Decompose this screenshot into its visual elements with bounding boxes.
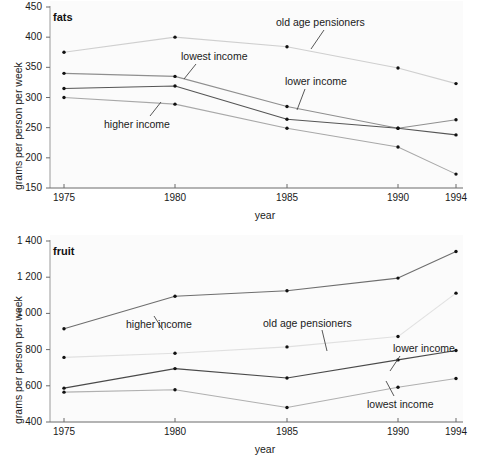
fruit-y-tick-label: 1 400 bbox=[0, 235, 42, 246]
fats-label-lower-income: lower income bbox=[285, 75, 347, 87]
fats-y-tick-label: 200 bbox=[0, 152, 42, 163]
fats-x-tick-label: 1990 bbox=[373, 192, 423, 203]
fats-y-tick-label: 300 bbox=[0, 92, 42, 103]
fruit-y-tick-label: 800 bbox=[0, 344, 42, 355]
fats-y-tick-label: 400 bbox=[0, 31, 42, 42]
fats-x-tick-label: 1975 bbox=[39, 192, 89, 203]
fruit-label-lowest-income: lowest income bbox=[367, 398, 434, 410]
fats-x-tick-label: 1980 bbox=[150, 192, 200, 203]
fruit-label-old-age-pensioners: old age pensioners bbox=[263, 317, 352, 329]
fruit-y-tick-label: 400 bbox=[0, 416, 42, 427]
fats-label-higher-income: higher income bbox=[104, 118, 170, 130]
fruit-label-lower-income: lower income bbox=[393, 342, 455, 354]
fats-chart-panel: fats grams per person per week year old … bbox=[0, 0, 481, 234]
fats-x-axis-title: year bbox=[255, 209, 275, 221]
fruit-y-tick-label: 600 bbox=[0, 380, 42, 391]
fats-chart-title: fats bbox=[53, 11, 73, 23]
fruit-x-tick-label: 1990 bbox=[373, 426, 423, 437]
fruit-label-higher-income: higher income bbox=[126, 318, 192, 330]
fruit-x-tick-label: 1980 bbox=[150, 426, 200, 437]
fruit-chart-panel: fruit grams per person per week year hig… bbox=[0, 234, 481, 468]
fats-y-tick-label: 450 bbox=[0, 1, 42, 12]
fruit-chart-title: fruit bbox=[53, 245, 74, 257]
fruit-x-tick-label: 1975 bbox=[39, 426, 89, 437]
fruit-x-tick-label: 1994 bbox=[431, 426, 481, 437]
fruit-x-axis-title: year bbox=[255, 443, 275, 455]
fats-y-tick-label: 350 bbox=[0, 61, 42, 72]
fats-x-tick-label: 1985 bbox=[262, 192, 312, 203]
fruit-y-tick-label: 1 000 bbox=[0, 307, 42, 318]
fruit-x-tick-label: 1985 bbox=[262, 426, 312, 437]
fats-x-tick-label: 1994 bbox=[431, 192, 481, 203]
fruit-y-tick-label: 1 200 bbox=[0, 271, 42, 282]
fats-y-tick-label: 150 bbox=[0, 182, 42, 193]
fats-label-lowest-income: lowest income bbox=[181, 50, 248, 62]
fats-y-tick-label: 250 bbox=[0, 122, 42, 133]
fats-label-old-age-pensioners: old age pensioners bbox=[276, 16, 365, 28]
